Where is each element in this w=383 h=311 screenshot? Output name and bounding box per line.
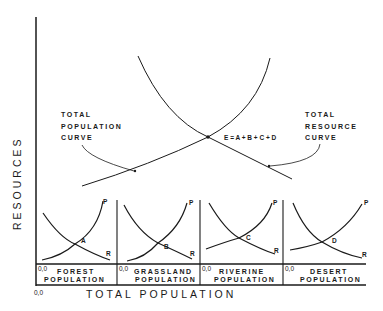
svg-text:0,0: 0,0 bbox=[202, 265, 211, 272]
panel-desert: D P R 0,0 DESERT POPULATION bbox=[285, 199, 369, 283]
total-population-curve bbox=[82, 58, 270, 186]
svg-text:POPULATION: POPULATION bbox=[214, 276, 275, 283]
arrow-head-icon bbox=[268, 165, 270, 167]
equilibrium-point bbox=[206, 135, 210, 139]
arrow-head-icon bbox=[134, 170, 136, 172]
svg-text:TOTAL: TOTAL bbox=[305, 111, 336, 118]
svg-text:CURVE: CURVE bbox=[61, 134, 93, 141]
panel-grassland: B P R 0,0 GRASSLAND POPULATION bbox=[119, 199, 196, 283]
svg-text:P: P bbox=[273, 199, 278, 206]
svg-text:DESERT: DESERT bbox=[310, 268, 348, 275]
panel-riverine: C P R 0,0 RIVERINE POPULATION bbox=[202, 199, 279, 283]
population-resource-diagram: RESOURCES E = A + B + C + D TOTAL POPULA… bbox=[0, 0, 383, 311]
svg-text:R: R bbox=[274, 247, 279, 254]
equilibrium-label: E = A + B + C + D bbox=[224, 134, 277, 141]
svg-text:B: B bbox=[164, 243, 169, 250]
svg-text:TOTAL: TOTAL bbox=[61, 111, 92, 118]
svg-text:0,0: 0,0 bbox=[119, 265, 128, 272]
main-origin-label: 0,0 bbox=[34, 289, 43, 296]
svg-text:RESOURCE: RESOURCE bbox=[305, 123, 357, 130]
total-resource-curve-label: TOTAL RESOURCE CURVE bbox=[305, 111, 357, 141]
svg-text:FOREST: FOREST bbox=[57, 268, 95, 275]
svg-text:POPULATION: POPULATION bbox=[44, 276, 105, 283]
y-axis-label: RESOURCES bbox=[11, 136, 23, 230]
svg-text:P: P bbox=[103, 198, 108, 205]
svg-text:POPULATION: POPULATION bbox=[300, 276, 361, 283]
population-pointer-arrow bbox=[82, 145, 134, 171]
svg-text:R: R bbox=[190, 250, 195, 257]
svg-text:D: D bbox=[332, 237, 337, 244]
svg-text:POPULATION: POPULATION bbox=[61, 123, 122, 130]
svg-text:R: R bbox=[106, 250, 111, 257]
svg-text:A: A bbox=[81, 237, 86, 244]
svg-text:P: P bbox=[189, 199, 194, 206]
svg-text:GRASSLAND: GRASSLAND bbox=[134, 268, 193, 275]
svg-text:P: P bbox=[364, 199, 369, 206]
svg-text:CURVE: CURVE bbox=[305, 134, 337, 141]
svg-text:C: C bbox=[246, 234, 251, 241]
svg-text:0,0: 0,0 bbox=[285, 265, 294, 272]
resource-pointer-arrow bbox=[270, 144, 320, 166]
svg-text:RIVERINE: RIVERINE bbox=[219, 268, 265, 275]
svg-text:R: R bbox=[362, 251, 367, 258]
x-axis-label: TOTAL POPULATION bbox=[86, 288, 236, 300]
total-population-curve-label: TOTAL POPULATION CURVE bbox=[61, 111, 122, 141]
panel-forest: A P R 0,0 FOREST POPULATION bbox=[38, 198, 111, 283]
total-resource-curve bbox=[138, 56, 292, 179]
svg-text:0,0: 0,0 bbox=[38, 265, 47, 272]
svg-text:POPULATION: POPULATION bbox=[135, 276, 196, 283]
